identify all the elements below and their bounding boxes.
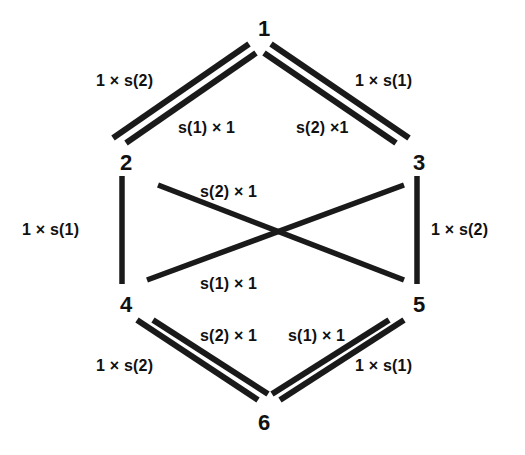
node-label-3: 3	[413, 152, 425, 174]
node-label-5: 5	[413, 294, 425, 316]
edge-label-top-right-outer: 1 × s(1)	[355, 73, 412, 89]
edge-label-bottom-right-outer: 1 × s(1)	[355, 358, 412, 374]
edge-label-left-vertical: 1 × s(1)	[22, 222, 79, 238]
edge-label-bottom-left-outer: 1 × s(2)	[96, 358, 153, 374]
edge-group	[113, 44, 417, 400]
edge-label-top-left-inner: s(1) × 1	[178, 120, 235, 136]
node-label-4: 4	[120, 294, 132, 316]
edge-label-right-vertical: 1 × s(2)	[431, 222, 488, 238]
edge-label-bottom-inner-right: s(1) × 1	[288, 328, 345, 344]
edge-label-top-right-inner: s(2) ×1	[296, 120, 349, 136]
node-label-1: 1	[258, 18, 270, 40]
edge-label-cross-lower: s(1) × 1	[200, 276, 257, 292]
edge-label-cross-upper: s(2) × 1	[200, 184, 257, 200]
edge-label-top-left-outer: 1 × s(2)	[96, 73, 153, 89]
node-label-6: 6	[258, 412, 270, 434]
node-label-2: 2	[120, 152, 132, 174]
hexagon-diagram: 123456 1 × s(2)1 × s(1)s(1) × 1s(2) ×11 …	[0, 0, 525, 455]
edge-label-bottom-inner-left: s(2) × 1	[200, 328, 257, 344]
